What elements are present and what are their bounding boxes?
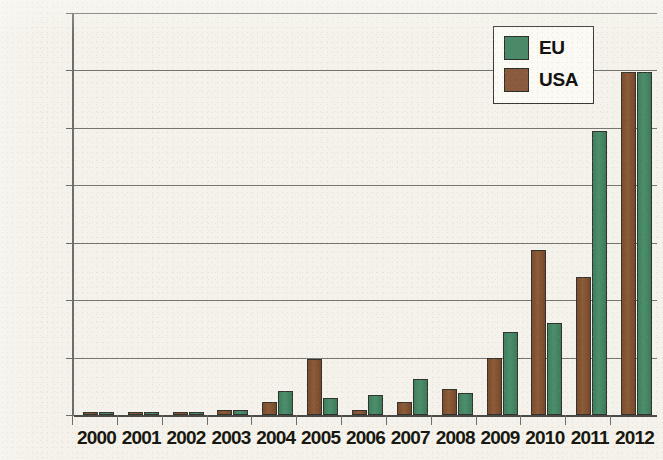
bar-usa-2012 [621, 72, 636, 415]
bar-eu-2006 [368, 395, 383, 415]
y-axis-tick-10000 [66, 128, 74, 129]
bar-eu-2011 [592, 131, 607, 415]
x-axis-labels: 2000200120022003200420052006200720082009… [0, 427, 663, 457]
gridline-6000 [74, 243, 657, 244]
y-axis-tick-8000 [66, 185, 74, 186]
bar-eu-2009 [503, 332, 518, 415]
x-axis-label-2012: 2012 [607, 427, 663, 449]
x-axis-tick-2006 [341, 415, 342, 425]
x-axis-ticks [72, 415, 655, 425]
bar-usa-2010 [531, 250, 546, 415]
legend-entry-eu: EU [504, 36, 565, 60]
bar-usa-2005 [307, 359, 322, 415]
bar-eu-2010 [547, 323, 562, 415]
legend-swatch-usa [504, 68, 529, 92]
bar-eu-2004 [278, 391, 293, 415]
y-axis-tick-6000 [66, 243, 74, 244]
bar-usa-2008 [442, 389, 457, 415]
bar-eu-2005 [323, 398, 338, 415]
gridline-8000 [74, 185, 657, 186]
gridline-4000 [74, 300, 657, 301]
bar-eu-2012 [637, 72, 652, 415]
x-axis-tick-2012 [610, 415, 611, 425]
y-axis-tick-2000 [66, 358, 74, 359]
x-axis-tick-2007 [386, 415, 387, 425]
x-axis-tick-2008 [431, 415, 432, 425]
legend-label-usa: USA [539, 69, 578, 91]
gridline-14000 [74, 13, 657, 14]
x-axis-tick-2001 [117, 415, 118, 425]
legend-entry-usa: USA [504, 68, 578, 92]
x-axis-tick-2009 [476, 415, 477, 425]
x-axis-tick-2003 [207, 415, 208, 425]
y-axis-tick-14000 [66, 13, 74, 14]
bar-eu-2007 [413, 379, 428, 415]
y-axis-tick-4000 [66, 300, 74, 301]
x-axis-tick-2005 [296, 415, 297, 425]
gridline-2000 [74, 358, 657, 359]
x-axis-tick-2011 [565, 415, 566, 425]
chart-legend: EU USA [493, 26, 594, 104]
y-axis-tick-12000 [66, 70, 74, 71]
bar-usa-2007 [397, 402, 412, 415]
legend-swatch-eu [504, 36, 529, 60]
bar-usa-2011 [576, 277, 591, 415]
x-axis-tick-2010 [520, 415, 521, 425]
bar-eu-2008 [458, 393, 473, 415]
bar-chart: 02000400060008000100001200014000 2000200… [0, 0, 663, 460]
x-axis-tick-2004 [251, 415, 252, 425]
bar-usa-2009 [487, 358, 502, 415]
gridline-10000 [74, 128, 657, 129]
bar-usa-2004 [262, 402, 277, 415]
legend-label-eu: EU [539, 37, 565, 59]
x-axis-tick-2000 [72, 415, 73, 425]
x-axis-tick-2002 [162, 415, 163, 425]
